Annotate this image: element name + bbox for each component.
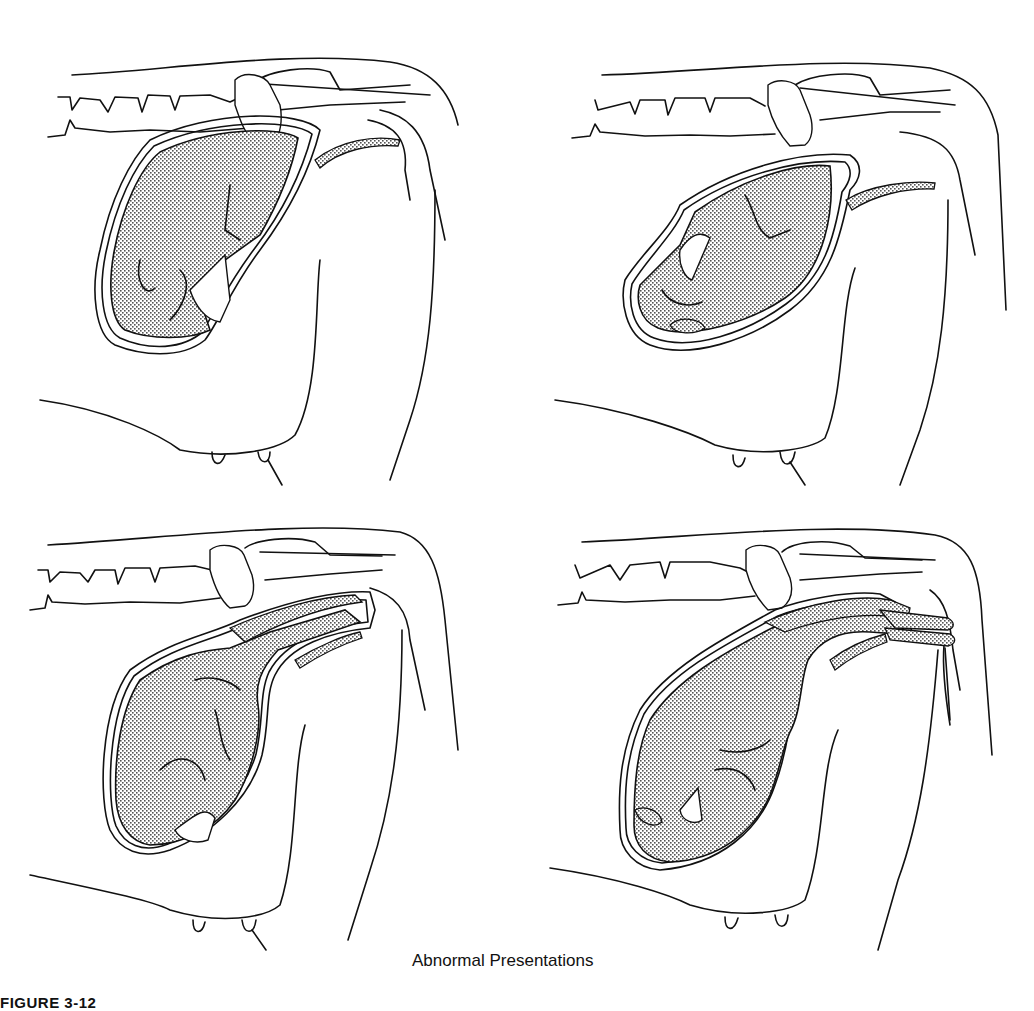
calf-stippled <box>116 595 362 845</box>
tail-and-rump <box>368 110 445 480</box>
diagram-panel-1 <box>30 40 480 500</box>
birth-canal <box>830 634 887 670</box>
calf-stippled <box>634 598 912 862</box>
calf-stippled <box>638 165 831 332</box>
figure-caption: Abnormal Presentations <box>412 951 593 971</box>
figure-label: FIGURE 3-12 <box>0 994 96 1011</box>
diagram-panel-2 <box>550 40 1034 500</box>
calf-stippled <box>111 131 298 338</box>
spine <box>572 98 940 138</box>
birth-canal <box>315 138 400 168</box>
pelvis-bone <box>746 545 792 610</box>
pelvis-bone <box>768 81 812 146</box>
diagram-panel-3 <box>30 510 480 950</box>
birth-canal <box>846 182 935 210</box>
spine <box>48 95 405 137</box>
diagram-panel-4 <box>550 510 1034 950</box>
tail-and-rump <box>348 588 425 940</box>
